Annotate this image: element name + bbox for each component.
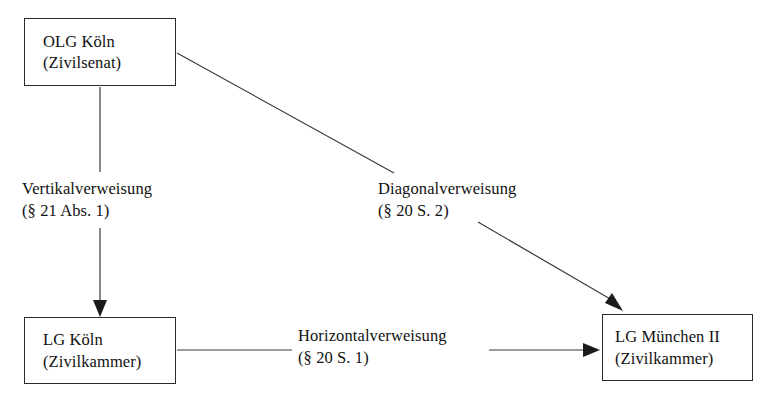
- edge-label-horizontalverweisung-line1: Horizontalverweisung: [298, 325, 447, 347]
- node-lg-koeln-line2: (Zivilkammer): [43, 351, 175, 372]
- edge-label-vertikalverweisung-line1: Vertikalverweisung: [22, 178, 152, 200]
- edge-label-diagonalverweisung-line1: Diagonalverweisung: [378, 178, 516, 200]
- edge-label-diagonalverweisung: Diagonalverweisung (§ 20 S. 2): [378, 178, 516, 222]
- node-lg-muenchen-line1: LG München II: [615, 326, 752, 347]
- edge-label-horizontalverweisung-line2: (§ 20 S. 1): [298, 347, 447, 369]
- node-olg-koeln-line2: (Zivilsenat): [43, 52, 175, 73]
- diagram-canvas: OLG Köln (Zivilsenat) LG Köln (Zivilkamm…: [0, 0, 778, 405]
- node-olg-koeln-line1: OLG Köln: [43, 31, 175, 52]
- edge-label-horizontalverweisung: Horizontalverweisung (§ 20 S. 1): [298, 325, 447, 369]
- node-olg-koeln[interactable]: OLG Köln (Zivilsenat): [24, 18, 176, 86]
- node-lg-koeln[interactable]: LG Köln (Zivilkammer): [24, 317, 176, 384]
- node-lg-muenchen[interactable]: LG München II (Zivilkammer): [602, 314, 753, 381]
- edge-label-diagonalverweisung-line2: (§ 20 S. 2): [378, 200, 516, 222]
- node-lg-koeln-line1: LG Köln: [43, 329, 175, 350]
- edge-label-vertikalverweisung: Vertikalverweisung (§ 21 Abs. 1): [22, 178, 152, 222]
- node-lg-muenchen-line2: (Zivilkammer): [615, 348, 752, 369]
- edge-label-vertikalverweisung-line2: (§ 21 Abs. 1): [22, 200, 152, 222]
